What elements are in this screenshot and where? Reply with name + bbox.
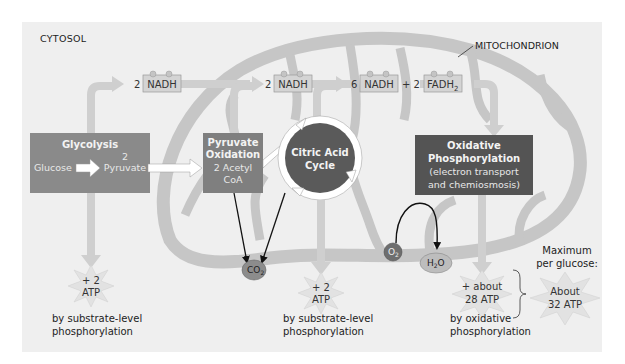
svg-text:NADH: NADH: [278, 79, 308, 90]
svg-text:About: About: [550, 286, 580, 297]
svg-text:ATP: ATP: [82, 287, 100, 298]
svg-text:+ 2: + 2: [312, 282, 330, 293]
svg-text:+ 2: + 2: [402, 79, 420, 90]
svg-text:by oxidative: by oxidative: [450, 313, 511, 324]
co2-molecule: CO2: [242, 260, 266, 280]
glycolysis-box: Glycolysis Glucose 2 Pyruvate: [30, 133, 150, 193]
svg-text:NADH: NADH: [364, 79, 394, 90]
svg-text:by substrate-level: by substrate-level: [52, 313, 142, 324]
svg-text:+ about: + about: [462, 281, 502, 292]
svg-text:(electron transport: (electron transport: [429, 166, 519, 177]
svg-text:32 ATP: 32 ATP: [548, 299, 582, 310]
svg-text:Maximum: Maximum: [542, 245, 591, 256]
svg-text:CoA: CoA: [224, 174, 243, 185]
svg-text:per glucose:: per glucose:: [536, 258, 598, 269]
svg-text:Glycolysis: Glycolysis: [62, 139, 118, 150]
svg-text:6: 6: [351, 79, 357, 90]
svg-text:phosphorylation: phosphorylation: [450, 326, 531, 337]
svg-text:Cycle: Cycle: [305, 160, 335, 171]
svg-text:Oxidative: Oxidative: [447, 140, 501, 151]
svg-text:2 Acetyl: 2 Acetyl: [214, 162, 252, 173]
svg-text:+ 2: + 2: [82, 275, 100, 286]
svg-text:Glucose: Glucose: [34, 162, 72, 173]
svg-text:Pyruvate: Pyruvate: [208, 137, 259, 148]
h2o-molecule: H2O: [420, 253, 452, 273]
mitochondrion-label: MITOCHONDRION: [475, 40, 559, 51]
svg-text:phosphorylation: phosphorylation: [283, 326, 364, 337]
svg-text:phosphorylation: phosphorylation: [52, 326, 133, 337]
cytosol-label: CYTOSOL: [40, 33, 87, 44]
svg-text:Citric Acid: Citric Acid: [291, 147, 349, 158]
svg-text:NADH: NADH: [147, 79, 177, 90]
svg-text:Pyruvate: Pyruvate: [104, 162, 146, 173]
svg-text:Phosphorylation: Phosphorylation: [428, 153, 520, 164]
svg-text:by substrate-level: by substrate-level: [283, 313, 373, 324]
svg-text:2: 2: [134, 79, 140, 90]
svg-text:Oxidation: Oxidation: [206, 149, 260, 160]
cellular-respiration-diagram: CYTOSOL MITOCHONDRION 2 NA: [0, 0, 625, 364]
svg-text:28 ATP: 28 ATP: [465, 294, 499, 305]
svg-text:ATP: ATP: [312, 294, 330, 305]
svg-text:2: 2: [265, 79, 271, 90]
o2-molecule: O2: [384, 243, 402, 261]
pyruvate-oxidation-box: Pyruvate Oxidation 2 Acetyl CoA: [203, 133, 263, 193]
citric-acid-cycle: Citric Acid Cycle: [278, 116, 362, 200]
svg-text:and chemiosmosis): and chemiosmosis): [428, 179, 520, 190]
svg-text:2: 2: [122, 151, 128, 162]
oxidative-phosphorylation-box: Oxidative Phosphorylation (electron tran…: [415, 135, 533, 195]
